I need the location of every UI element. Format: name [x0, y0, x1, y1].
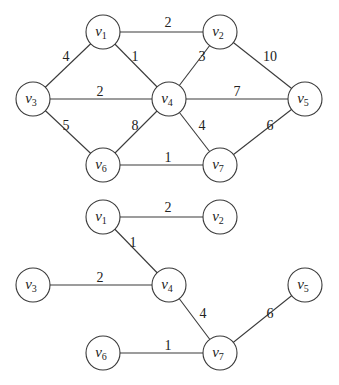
- edge-weight: 1: [165, 150, 172, 165]
- node-v2: v2: [203, 15, 237, 49]
- node-v3: v3: [16, 82, 50, 116]
- minimum-spanning-tree: 212461v1v2v3v4v5v6v7: [16, 200, 322, 370]
- node-v1: v1: [86, 15, 120, 49]
- edge-weight: 6: [267, 118, 274, 133]
- edge-weight: 2: [97, 270, 104, 285]
- edge-weight: 1: [165, 338, 172, 353]
- weighted-graph: 2413102758461v1v2v3v4v5v6v7: [16, 15, 322, 182]
- node-v5: v5: [288, 268, 322, 302]
- node-v4: v4: [152, 82, 186, 116]
- node-v4: v4: [152, 268, 186, 302]
- node-v6: v6: [86, 148, 120, 182]
- edge-weight: 4: [200, 306, 207, 321]
- node-v5: v5: [288, 82, 322, 116]
- node-v2: v2: [203, 200, 237, 234]
- node-v7: v7: [203, 336, 237, 370]
- node-v6: v6: [86, 336, 120, 370]
- edge-weight: 7: [234, 84, 241, 99]
- node-v3: v3: [16, 268, 50, 302]
- edge-weight: 1: [130, 235, 137, 250]
- edge-weight: 6: [267, 306, 274, 321]
- edge-weight: 8: [132, 118, 139, 133]
- node-v7: v7: [203, 148, 237, 182]
- edge-weight: 4: [63, 49, 70, 64]
- edge-weight: 10: [263, 49, 277, 64]
- edge-weight: 1: [132, 49, 139, 64]
- edge-weight: 2: [165, 200, 172, 215]
- edge-weight: 2: [165, 15, 172, 30]
- edge-weight: 2: [97, 84, 104, 99]
- graph-diagram: 2413102758461v1v2v3v4v5v6v7 212461v1v2v3…: [0, 0, 339, 385]
- edge-weight: 5: [63, 118, 70, 133]
- node-v1: v1: [86, 200, 120, 234]
- edge-weight: 4: [199, 118, 206, 133]
- edge-weight: 3: [199, 49, 206, 64]
